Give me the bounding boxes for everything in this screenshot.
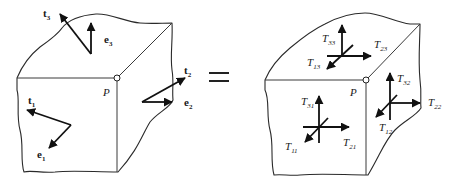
front-face-stress-components: T31 T21 T11 — [285, 95, 356, 155]
e2-label: e2 — [184, 96, 193, 111]
t3-vector-arrow — [60, 14, 91, 54]
right-face-stress-components: T32 T22 T12 — [376, 72, 442, 136]
t11-label: T11 — [285, 140, 298, 155]
t32-label: T32 — [397, 72, 411, 87]
t1-label: t1 — [28, 94, 36, 109]
right-cube-edge-diagonal — [368, 24, 420, 78]
t31-label: T31 — [301, 95, 314, 110]
t33-label: T33 — [322, 32, 336, 47]
right-point-p-marker — [363, 77, 369, 83]
left-point-p-marker — [114, 75, 120, 81]
e1-label: e1 — [37, 148, 46, 163]
left-cube-edge-diagonal — [119, 23, 172, 76]
equals-sign — [209, 72, 229, 82]
t2-vector-arrow — [142, 78, 185, 102]
e1-vector-arrow — [49, 125, 71, 148]
t21-label: T21 — [343, 136, 356, 151]
top-face-stress-components: T33 T23 T13 — [307, 25, 388, 71]
t3-label: t3 — [43, 7, 51, 22]
t2-label: t2 — [184, 64, 192, 79]
e3-label: e3 — [104, 33, 113, 48]
right-cube-figure: P T33 T23 T13 T32 T22 T12 T31 T21 T11 — [265, 13, 442, 175]
left-cube-figure: P t3 e3 t2 e2 t1 e1 — [17, 7, 193, 172]
t22-label: T22 — [428, 96, 442, 111]
t1-vector-arrow — [27, 110, 71, 125]
t11-arrow — [305, 118, 328, 142]
t12-label: T12 — [379, 121, 393, 136]
t12-arrow — [376, 95, 397, 117]
t13-arrow — [327, 45, 353, 69]
stress-equivalence-diagram: P t3 e3 t2 e2 t1 e1 P T33 — [0, 0, 454, 185]
left-point-p-label: P — [102, 86, 110, 98]
right-point-p-label: P — [349, 86, 357, 98]
t23-label: T23 — [374, 38, 388, 53]
t13-label: T13 — [307, 56, 321, 71]
